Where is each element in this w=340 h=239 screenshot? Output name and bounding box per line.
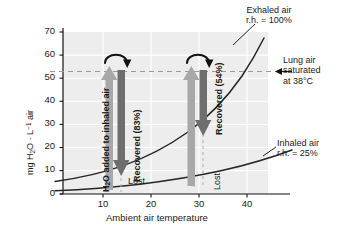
- y-tick-20: 20: [33, 141, 55, 152]
- annotation-inhaled-air-line2: r.h. = 25%: [277, 148, 339, 158]
- annotation-exhaled-air-line1: Exhaled air: [226, 5, 312, 15]
- annotation-inhaled-air-line1: Inhaled air: [277, 138, 339, 148]
- label-lost-cold: Lost: [128, 176, 145, 186]
- x-axis-label: Ambient air temperature: [106, 213, 208, 224]
- annotation-lung-line1: Lung air: [283, 55, 340, 65]
- annotation-inhaled-air: Inhaled air r.h. = 25%: [277, 138, 339, 159]
- annotation-exhaled-air-line2: r.h. = 100%: [226, 15, 312, 25]
- annotation-exhaled-air: Exhaled air r.h. = 100%: [226, 5, 312, 26]
- label-h2o-added: H2O added to inhaled air: [101, 87, 111, 192]
- y-tick-40: 40: [33, 95, 55, 106]
- y-tick-30: 30: [33, 118, 55, 129]
- x-tick-30: 30: [186, 199, 212, 210]
- annotation-lung-saturation: Lung air saturated at 38°C: [283, 55, 340, 86]
- y-tick-10: 10: [33, 164, 55, 175]
- y-tick-60: 60: [33, 49, 55, 60]
- label-recovered-54: Recovered (54%): [214, 62, 224, 135]
- plot-background: [63, 32, 268, 194]
- y-tick-50: 50: [33, 72, 55, 83]
- x-tick-20: 20: [138, 199, 164, 210]
- annotation-lung-line3: at 38°C: [283, 76, 340, 86]
- y-tick-70: 70: [33, 26, 55, 37]
- label-lost-warm: Lost: [212, 173, 222, 190]
- x-tick-10: 10: [90, 199, 116, 210]
- y-tick-0: 0: [33, 188, 55, 199]
- label-recovered-83: Recovered (83%): [132, 109, 142, 182]
- x-tick-40: 40: [234, 199, 260, 210]
- annotation-lung-line2: saturated: [283, 65, 340, 75]
